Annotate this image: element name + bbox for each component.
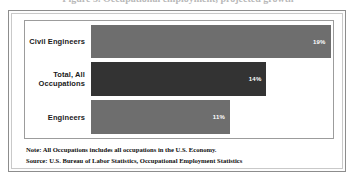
bar-value-label: 19%	[313, 39, 326, 45]
bar-value-label: 11%	[213, 114, 225, 120]
footnote-source: Source: U.S. Bureau of Labor Statistics,…	[26, 156, 332, 167]
bar-row: Engineers 11%	[25, 100, 333, 134]
cut-off-title-sliver: Figure 3. Occupational employment, proje…	[0, 0, 356, 8]
bar-track: 19%	[91, 25, 333, 58]
bar-chart-plot-area: Civil Engineers 19% Total, All Occupatio…	[24, 20, 334, 139]
bar-engineers: 11%	[91, 100, 230, 134]
bar-track: 11%	[91, 100, 333, 134]
bar-category-label: Engineers	[25, 113, 91, 122]
footnote-note: Note: All Occupations includes all occup…	[26, 145, 332, 156]
cut-off-title-text: Figure 3. Occupational employment, proje…	[0, 0, 356, 4]
bar-category-label-line2: Occupations	[38, 79, 85, 88]
bar-row: Civil Engineers 19%	[25, 25, 333, 58]
bar-value-label: 14%	[249, 76, 262, 82]
bar-category-label-line1: Total, All	[53, 70, 85, 79]
chart-figure-frame: Civil Engineers 19% Total, All Occupatio…	[8, 10, 346, 172]
bar-row: Total, All Occupations 14%	[25, 62, 333, 96]
bar-category-label: Civil Engineers	[25, 37, 91, 46]
bar-category-label: Total, All Occupations	[25, 70, 91, 88]
bar-track: 14%	[91, 62, 333, 96]
bar-civil-engineers: 19%	[91, 25, 331, 58]
chart-footnotes: Note: All Occupations includes all occup…	[26, 145, 332, 166]
chart-figure-inner-frame: Civil Engineers 19% Total, All Occupatio…	[11, 13, 343, 169]
bar-category-label-line1: Civil Engineers	[29, 37, 85, 46]
bar-total-all-occupations: 14%	[91, 62, 266, 96]
bar-category-label-line1: Engineers	[48, 113, 85, 122]
